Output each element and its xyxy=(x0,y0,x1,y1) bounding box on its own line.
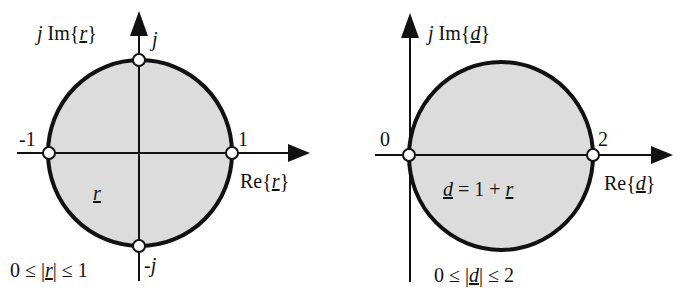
point-0 xyxy=(403,149,415,161)
left-constraint: 0 ≤ |r| ≤ 1 xyxy=(10,259,88,282)
label-1: 1 xyxy=(238,128,248,150)
region-label-r: r xyxy=(93,182,101,204)
left-diagram: j Im{r} j -1 1 Re{r} r -j 0 ≤ |r| ≤ 1 xyxy=(10,11,310,282)
right-diagram: j Im{d} 0 2 Re{d} d = 1 + r 0 ≤ |d| ≤ 2 xyxy=(375,13,673,287)
imag-axis-arrow-icon xyxy=(130,11,148,36)
real-axis-arrow-icon xyxy=(651,146,673,164)
point-1 xyxy=(226,147,238,159)
left-y-axis-label: j Im{r} xyxy=(34,22,97,45)
point-bottom-minus-j xyxy=(133,240,145,252)
point-minus-1 xyxy=(43,147,55,159)
left-x-axis-label: Re{r} xyxy=(240,170,289,192)
point-top-j xyxy=(133,54,145,66)
right-constraint: 0 ≤ |d| ≤ 2 xyxy=(434,264,514,287)
label-0: 0 xyxy=(380,128,390,150)
point-2 xyxy=(587,149,599,161)
imag-axis-arrow-icon xyxy=(401,13,419,38)
region-label-d: d = 1 + r xyxy=(443,178,514,200)
right-x-axis-label: Re{d} xyxy=(604,172,655,194)
label-2: 2 xyxy=(598,128,608,150)
diagram-canvas: j Im{r} j -1 1 Re{r} r -j 0 ≤ |r| ≤ 1 j … xyxy=(0,0,683,306)
label-j: j xyxy=(149,28,158,51)
right-y-axis-label: j Im{d} xyxy=(425,22,490,45)
label-minus-1: -1 xyxy=(19,128,36,150)
label-minus-j: -j xyxy=(144,254,157,277)
real-axis-arrow-icon xyxy=(288,144,310,162)
